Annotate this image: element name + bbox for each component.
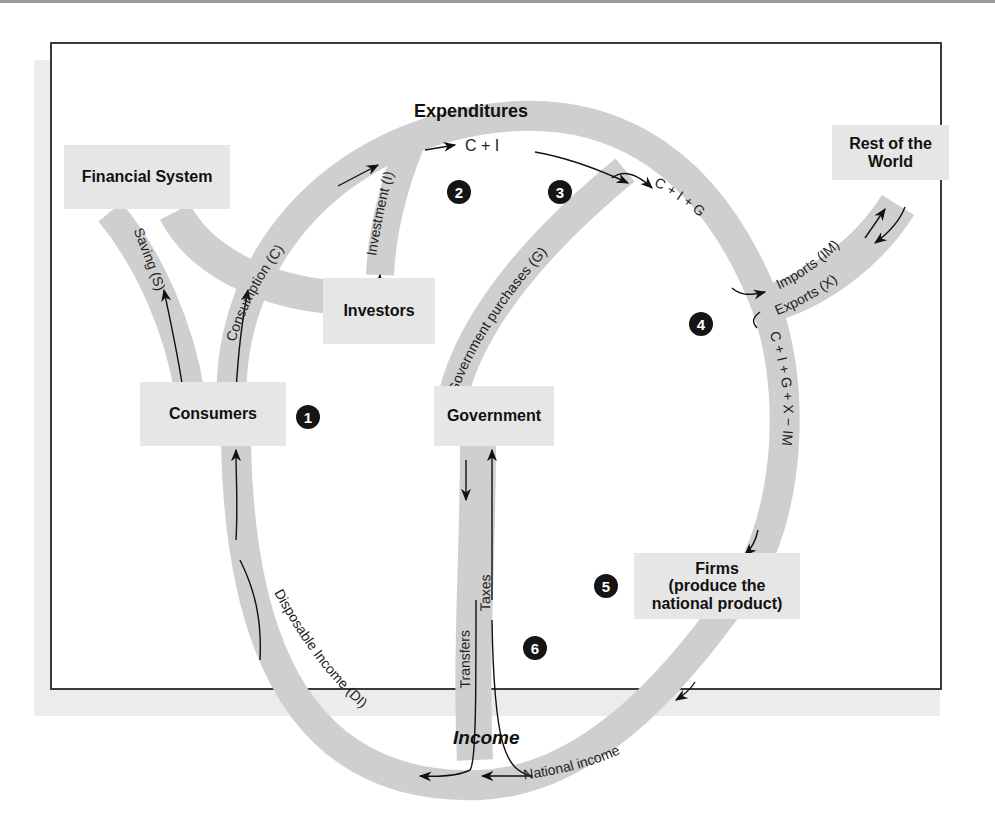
taxes-label: Taxes: [477, 574, 493, 611]
flow-pipes: [110, 116, 898, 785]
firms-box: Firms (produce the national product): [634, 553, 800, 619]
financial-system-box: Financial System: [64, 145, 230, 209]
income-title: Income: [453, 727, 520, 748]
investors-label: Investors: [343, 302, 414, 320]
badge-1: 1: [296, 405, 320, 429]
consumers-box: Consumers: [140, 382, 286, 446]
firms-line2: (produce the: [669, 577, 766, 595]
badge-5: 5: [594, 574, 618, 598]
government-label: Government: [447, 407, 541, 425]
government-box: Government: [434, 386, 554, 446]
financial-system-label: Financial System: [82, 168, 213, 186]
consumers-label: Consumers: [169, 405, 257, 423]
rest-of-world-box: Rest of the World: [832, 125, 949, 180]
investors-box: Investors: [323, 278, 435, 344]
badge-6: 6: [523, 636, 547, 660]
government-purchases-label: Government purchases (G): [445, 244, 550, 396]
expenditures-title: Expenditures: [414, 101, 528, 121]
badge-3: 3: [548, 180, 572, 204]
rest-of-world-line1: Rest of the: [849, 135, 932, 153]
c-plus-i-label: C + I: [465, 137, 499, 154]
rest-of-world-line2: World: [868, 153, 913, 171]
firms-line3: national product): [652, 595, 783, 613]
transfers-label: Transfers: [456, 630, 473, 689]
badge-2: 2: [447, 180, 471, 204]
badge-4: 4: [689, 312, 713, 336]
firms-line1: Firms: [695, 560, 739, 578]
